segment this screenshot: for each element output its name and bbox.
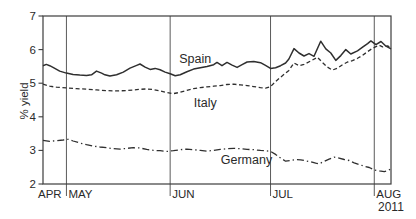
series-label-germany: Germany [221,153,273,167]
series-line-italy [43,45,391,93]
year-label: 2011 [378,200,404,214]
x-month-label: AUG [376,188,401,200]
yield-chart: 234567APRMAYJUNJULAUGSpainItalyGermany %… [0,0,416,219]
y-tick-label: 6 [30,44,36,56]
y-tick-label: 3 [30,144,36,156]
series-line-germany [43,139,391,171]
x-month-label: APR [38,188,62,200]
series-label-italy: Italy [194,96,218,110]
y-tick-label: 2 [30,178,36,190]
plot-frame [43,16,391,184]
y-tick-label: 5 [30,77,36,89]
y-tick-label: 4 [30,111,37,123]
chart-svg: 234567APRMAYJUNJULAUGSpainItalyGermany [0,0,416,219]
series-line-spain [43,41,391,76]
series-label-spain: Spain [179,52,211,66]
y-axis-title: % yield [18,82,30,119]
x-month-label: MAY [68,188,92,200]
x-month-label: JUN [172,188,194,200]
y-tick-label: 7 [30,10,36,22]
x-month-label: JUL [273,188,294,200]
